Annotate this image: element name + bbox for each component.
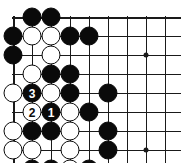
stone-white	[42, 46, 61, 65]
stone-white	[4, 141, 23, 160]
stone-black	[61, 84, 80, 103]
stone-black	[42, 122, 61, 141]
stone-black	[4, 27, 23, 46]
stone-black	[80, 27, 99, 46]
stone-number-label: 2	[29, 106, 36, 118]
grid-line-vertical	[127, 16, 128, 163]
stone-black	[23, 160, 42, 164]
stone-white	[4, 122, 23, 141]
stone-black	[4, 46, 23, 65]
numbered-stone-white-2: 2	[23, 103, 42, 122]
stone-white	[61, 103, 80, 122]
stone-white	[23, 65, 42, 84]
stone-white	[61, 160, 80, 164]
grid-line-vertical	[165, 16, 166, 163]
stone-white	[42, 84, 61, 103]
grid-line-horizontal	[12, 55, 181, 56]
stone-white	[23, 27, 42, 46]
stone-black	[80, 160, 99, 164]
stone-black	[99, 84, 118, 103]
stone-black	[23, 122, 42, 141]
stone-white	[61, 141, 80, 160]
stone-number-label: 1	[48, 106, 55, 118]
go-board-diagram: 321	[0, 0, 181, 163]
numbered-stone-black-3: 3	[23, 84, 42, 103]
star-point-icon	[144, 53, 149, 58]
stone-black	[42, 65, 61, 84]
stone-white	[4, 84, 23, 103]
stone-black	[42, 8, 61, 27]
stone-black	[61, 27, 80, 46]
stone-number-label: 3	[29, 87, 36, 99]
star-point-icon	[144, 148, 149, 153]
stone-black	[23, 8, 42, 27]
stone-black	[42, 160, 61, 164]
stone-white	[42, 27, 61, 46]
grid-line-vertical	[146, 16, 147, 163]
numbered-stone-black-1: 1	[42, 103, 61, 122]
stone-black	[61, 65, 80, 84]
stone-white	[61, 122, 80, 141]
stone-black	[80, 103, 99, 122]
stone-white	[23, 141, 42, 160]
stone-black	[99, 141, 118, 160]
stone-black	[99, 122, 118, 141]
